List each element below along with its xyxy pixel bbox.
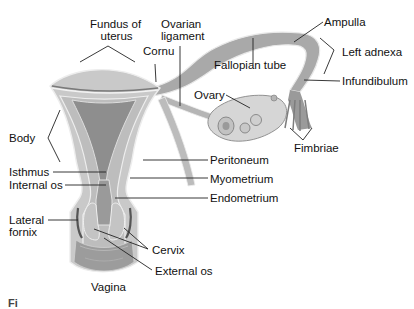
label-endometrium: Endometrium bbox=[210, 192, 278, 204]
label-myometrium: Myometrium bbox=[210, 173, 273, 185]
label-ovarian-line2: ligament bbox=[161, 30, 204, 42]
label-ampulla: Ampulla bbox=[324, 16, 366, 28]
cervical-canal bbox=[96, 180, 112, 225]
label-lateral-fornix-line1: Lateral bbox=[9, 214, 44, 226]
label-ovarian-ligament: Ovarian ligament bbox=[161, 18, 204, 42]
label-fundus-line1: Fundus of bbox=[90, 18, 141, 30]
ovary-shape bbox=[208, 95, 287, 141]
label-infundibulum: Infundibulum bbox=[342, 75, 408, 87]
label-internal-os: Internal os bbox=[9, 179, 63, 191]
label-ovarian-line1: Ovarian bbox=[161, 18, 204, 30]
label-cornu: Cornu bbox=[143, 45, 174, 57]
label-fundus-line2: uterus bbox=[90, 30, 141, 42]
label-body: Body bbox=[9, 132, 35, 144]
figure-caption-partial: Fi bbox=[8, 297, 18, 309]
label-cervix: Cervix bbox=[152, 244, 185, 256]
label-left-adnexa: Left adnexa bbox=[342, 46, 402, 58]
label-vagina: Vagina bbox=[91, 281, 126, 293]
label-fundus-of-uterus: Fundus of uterus bbox=[90, 18, 141, 42]
label-peritoneum: Peritoneum bbox=[210, 154, 269, 166]
label-lateral-fornix-line2: fornix bbox=[9, 226, 44, 238]
label-external-os: External os bbox=[155, 265, 213, 277]
label-fallopian-tube: Fallopian tube bbox=[214, 59, 286, 71]
label-fimbriae: Fimbriae bbox=[294, 142, 339, 154]
label-isthmus: Isthmus bbox=[9, 166, 49, 178]
label-ovary: Ovary bbox=[194, 89, 225, 101]
label-lateral-fornix: Lateral fornix bbox=[9, 214, 44, 238]
